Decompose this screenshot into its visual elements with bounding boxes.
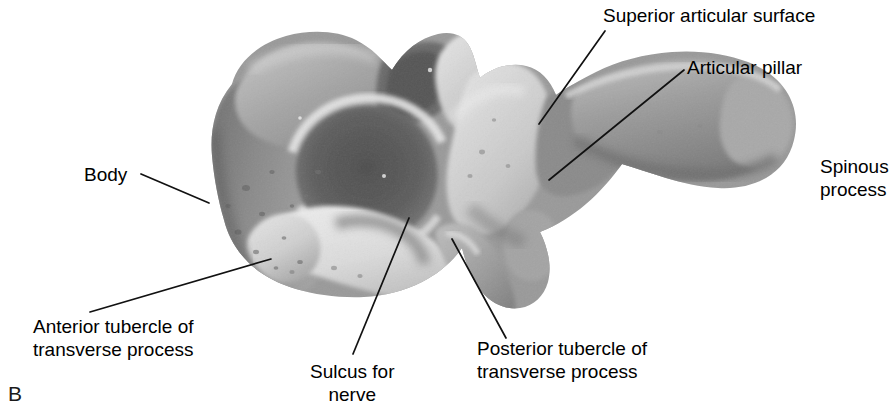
label-anterior-tubercle-of-transverse-process: Anterior tubercle of transverse process — [33, 315, 194, 361]
label-articular-pillar: Articular pillar — [687, 56, 802, 79]
panel-letter: B — [8, 382, 22, 405]
label-superior-articular-surface: Superior articular surface — [603, 4, 815, 27]
label-posterior-tubercle-of-transverse-process: Posterior tubercle of transverse process — [477, 337, 647, 383]
label-spinous-process: Spinous process — [820, 155, 889, 201]
label-sulcus-for-nerve: Sulcus for nerve — [310, 360, 394, 406]
label-body: Body — [84, 163, 127, 186]
anatomy-figure-panel-b: Body Superior articular surface Articula… — [0, 0, 894, 412]
